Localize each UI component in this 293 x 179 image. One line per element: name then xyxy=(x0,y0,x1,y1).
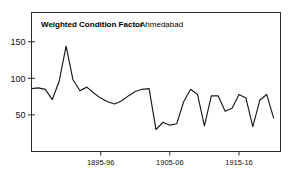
x-axis-tick-label: 1905-06 xyxy=(156,158,184,167)
x-axis-tick-label: 1915-16 xyxy=(225,158,253,167)
chart-subtitle: Ahmedabad xyxy=(140,20,183,29)
x-axis-tick-label: 1895-96 xyxy=(87,158,115,167)
y-axis-tick-label: 50 xyxy=(15,110,25,120)
y-axis-tick-label: 100 xyxy=(10,74,25,84)
chart-title: Weighted Condition Factor xyxy=(41,20,143,29)
line-chart: 50100150 1895-961905-061915-16 Weighted … xyxy=(0,0,293,179)
chart-container: 50100150 1895-961905-061915-16 Weighted … xyxy=(0,0,293,179)
y-axis-tick-label: 150 xyxy=(10,37,25,47)
